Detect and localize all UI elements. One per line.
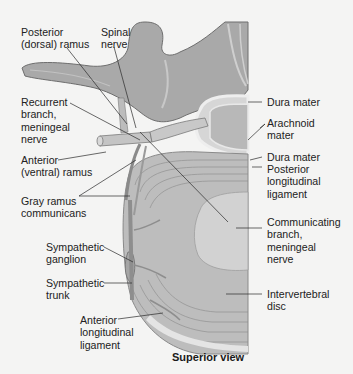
label-dura-mater-top: Dura mater [267,96,320,108]
label-communicating-branch-meningeal-nerve: Communicating branch, meningeal nerve [267,216,341,266]
label-sympathetic-trunk: Sympathetic trunk [46,277,104,302]
label-gray-ramus-communicans: Gray ramus communicans [21,195,86,220]
anatomical-figure: Posterior (dorsal) ramus Spinal nerve Re… [0,0,353,374]
sympathetic-trunk-shape [130,200,132,300]
label-dura-mater-bottom: Dura mater [267,151,320,163]
label-sympathetic-ganglion: Sympathetic ganglion [46,241,104,266]
label-arachnoid-mater: Arachnoid mater [267,117,315,142]
label-posterior-longitudinal-ligament: Posterior longitudinal ligament [267,163,321,200]
view-caption: Superior view [172,351,244,363]
label-recurrent-branch-meningeal-nerve: Recurrent branch, meningeal nerve [21,96,70,146]
label-posterior-dorsal-ramus: Posterior (dorsal) ramus [21,26,89,51]
posterior-ramus-nerve [118,98,128,133]
label-intervertebral-disc: Intervertebral disc [267,288,329,313]
anterior-ramus-nerve [100,132,152,146]
label-spinal-nerve: Spinal nerve [101,26,130,51]
label-anterior-longitudinal-ligament: Anterior longitudinal ligament [80,314,134,351]
label-anterior-ventral-ramus: Anterior (ventral) ramus [21,154,92,179]
